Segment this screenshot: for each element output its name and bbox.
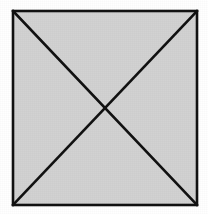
square-diagonals-diagram [0,0,208,214]
figure-canvas [0,0,208,214]
